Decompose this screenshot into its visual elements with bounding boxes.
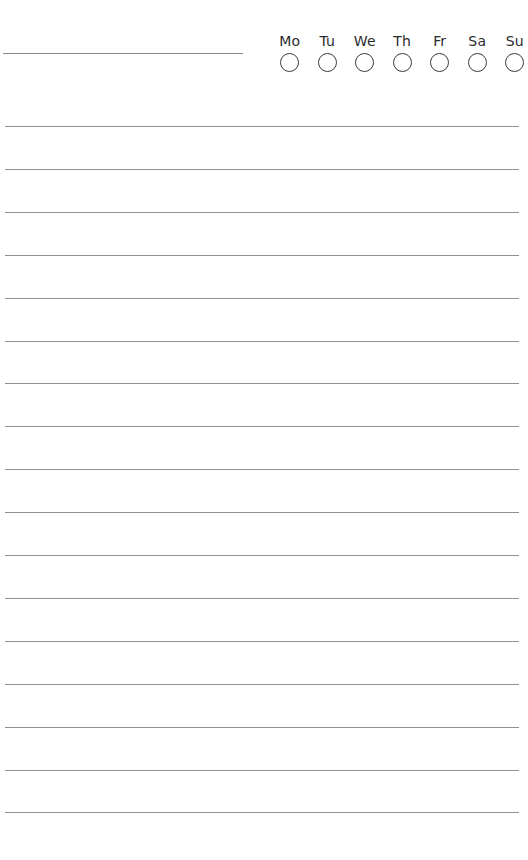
day-sa[interactable]: Sa: [459, 32, 497, 72]
writing-line[interactable]: [5, 641, 519, 642]
day-label: Tu: [319, 32, 335, 50]
day-label: Mo: [279, 32, 300, 50]
day-checkbox-circle-icon[interactable]: [505, 53, 524, 72]
day-su[interactable]: Su: [496, 32, 528, 72]
day-checkbox-circle-icon[interactable]: [430, 53, 449, 72]
writing-line[interactable]: [5, 298, 519, 299]
day-th[interactable]: Th: [384, 32, 422, 72]
writing-line[interactable]: [5, 212, 519, 213]
title-field-line[interactable]: [3, 53, 243, 54]
day-label: Th: [393, 32, 411, 50]
writing-line[interactable]: [5, 469, 519, 470]
day-tu[interactable]: Tu: [309, 32, 347, 72]
writing-line[interactable]: [5, 727, 519, 728]
day-checkbox-circle-icon[interactable]: [318, 53, 337, 72]
day-mo[interactable]: Mo: [271, 32, 309, 72]
writing-line[interactable]: [5, 169, 519, 170]
day-fr[interactable]: Fr: [421, 32, 459, 72]
day-checkbox-circle-icon[interactable]: [393, 53, 412, 72]
day-checkbox-circle-icon[interactable]: [355, 53, 374, 72]
writing-line[interactable]: [5, 255, 519, 256]
weekday-tracker: Mo Tu We Th Fr Sa Su: [271, 32, 528, 72]
writing-line[interactable]: [5, 555, 519, 556]
writing-line[interactable]: [5, 812, 519, 813]
writing-line[interactable]: [5, 770, 519, 771]
writing-line[interactable]: [5, 341, 519, 342]
writing-line[interactable]: [5, 598, 519, 599]
day-label: Su: [506, 32, 524, 50]
day-label: We: [354, 32, 376, 50]
day-checkbox-circle-icon[interactable]: [280, 53, 299, 72]
writing-line[interactable]: [5, 426, 519, 427]
writing-line[interactable]: [5, 126, 519, 127]
day-we[interactable]: We: [346, 32, 384, 72]
day-checkbox-circle-icon[interactable]: [468, 53, 487, 72]
writing-line[interactable]: [5, 512, 519, 513]
writing-line[interactable]: [5, 383, 519, 384]
day-label: Sa: [468, 32, 486, 50]
writing-line[interactable]: [5, 684, 519, 685]
day-label: Fr: [433, 32, 446, 50]
